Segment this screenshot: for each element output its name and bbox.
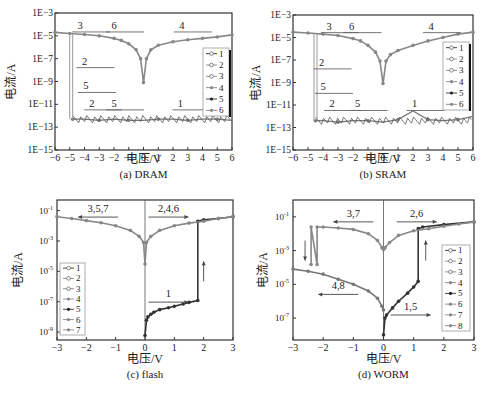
- svg-text:5: 5: [456, 152, 461, 163]
- svg-text:−1: −1: [110, 342, 121, 353]
- svg-text:4,8: 4,8: [332, 280, 345, 291]
- svg-text:1E−7: 1E−7: [32, 54, 53, 64]
- svg-text:1: 1: [412, 98, 417, 109]
- svg-text:6: 6: [219, 105, 224, 115]
- svg-text:3: 3: [231, 342, 236, 353]
- annotations: 3,72,64,81,5: [303, 208, 437, 317]
- svg-text:4: 4: [219, 83, 224, 93]
- svg-text:2: 2: [76, 273, 81, 283]
- svg-text:4: 4: [459, 77, 464, 87]
- svg-text:−5: −5: [303, 152, 314, 163]
- chart-caption: (d) WORM: [358, 368, 409, 381]
- svg-text:1E−3: 1E−3: [32, 8, 53, 18]
- svg-text:6: 6: [459, 99, 464, 109]
- svg-text:2: 2: [82, 56, 87, 67]
- svg-text:3: 3: [458, 267, 463, 277]
- svg-text:7: 7: [76, 325, 81, 335]
- svg-text:5: 5: [219, 94, 224, 104]
- svg-text:1: 1: [172, 342, 177, 353]
- plot-area-flash: −3−2−1012310-110-310-510-710-9电流/A电压/V(c…: [0, 195, 245, 394]
- svg-text:2: 2: [201, 342, 206, 353]
- svg-text:1E−3: 1E−3: [270, 10, 291, 20]
- x-axis-label: 电压/V: [365, 152, 401, 166]
- svg-text:1: 1: [458, 245, 463, 255]
- svg-text:2: 2: [219, 60, 224, 70]
- svg-text:−4: −4: [318, 152, 329, 163]
- svg-text:8: 8: [458, 321, 463, 331]
- svg-text:10-3: 10-3: [275, 245, 289, 256]
- svg-text:1: 1: [76, 263, 81, 273]
- svg-text:2,6: 2,6: [410, 208, 423, 219]
- x-axis-ticks: −3−2−10123: [52, 337, 236, 353]
- svg-text:3,5,7: 3,5,7: [88, 203, 109, 214]
- y-axis-label: 电流/A: [4, 63, 18, 99]
- svg-text:10-7: 10-7: [275, 312, 289, 323]
- svg-text:10-5: 10-5: [39, 265, 53, 276]
- svg-text:3: 3: [426, 152, 431, 163]
- svg-text:6: 6: [230, 152, 235, 163]
- annotations: 3,5,72,4,61: [78, 203, 206, 304]
- svg-text:1,5: 1,5: [404, 301, 417, 312]
- svg-text:1: 1: [219, 49, 224, 59]
- svg-text:4: 4: [200, 152, 205, 163]
- svg-text:2: 2: [458, 256, 463, 266]
- svg-text:1E−9: 1E−9: [32, 77, 53, 87]
- svg-text:1: 1: [459, 43, 464, 53]
- svg-text:6: 6: [458, 299, 463, 309]
- svg-text:10-7: 10-7: [39, 296, 53, 307]
- y-axis-label: 电流/A: [11, 252, 25, 288]
- svg-text:−2: −2: [318, 342, 329, 353]
- svg-text:5: 5: [355, 98, 360, 109]
- svg-text:2: 2: [459, 54, 464, 64]
- svg-text:6: 6: [76, 315, 81, 325]
- chart-caption: (c) flash: [127, 368, 164, 381]
- svg-text:−3: −3: [333, 152, 344, 163]
- svg-text:4: 4: [458, 278, 463, 288]
- svg-text:5: 5: [111, 98, 116, 109]
- svg-text:10-5: 10-5: [275, 278, 289, 289]
- svg-text:1: 1: [411, 342, 416, 353]
- svg-text:1E−13: 1E−13: [266, 123, 292, 133]
- svg-text:1E−11: 1E−11: [266, 100, 291, 110]
- chart-caption: (b) SRAM: [360, 168, 407, 181]
- svg-text:−3: −3: [94, 152, 105, 163]
- svg-text:1E−15: 1E−15: [266, 145, 292, 155]
- svg-text:4: 4: [179, 20, 185, 31]
- svg-text:3: 3: [77, 20, 82, 31]
- chart-panel-flash: −3−2−1012310-110-310-510-710-9电流/A电压/V(c…: [0, 195, 245, 394]
- svg-text:3: 3: [185, 152, 190, 163]
- svg-text:6: 6: [349, 21, 354, 32]
- svg-text:3,7: 3,7: [347, 208, 360, 219]
- svg-text:2: 2: [441, 342, 446, 353]
- svg-text:5: 5: [320, 81, 325, 92]
- chart-panel-sram: −6−5−4−3−2−101234561E−31E−51E−71E−91E−11…: [245, 0, 487, 195]
- svg-text:−3: −3: [52, 342, 63, 353]
- svg-text:−2: −2: [348, 152, 359, 163]
- svg-text:2,4,6: 2,4,6: [158, 203, 179, 214]
- svg-text:5: 5: [215, 152, 220, 163]
- svg-text:6: 6: [471, 152, 476, 163]
- svg-text:−2: −2: [109, 152, 120, 163]
- plot-area-sram: −6−5−4−3−2−101234561E−31E−51E−71E−91E−11…: [245, 0, 487, 195]
- svg-text:1E−9: 1E−9: [270, 78, 291, 88]
- svg-text:3: 3: [459, 65, 464, 75]
- svg-text:5: 5: [458, 288, 463, 298]
- x-axis-label: 电压/V: [127, 352, 163, 366]
- svg-text:4: 4: [441, 152, 446, 163]
- x-axis-ticks: −3−2−10123: [288, 337, 477, 353]
- svg-text:1: 1: [178, 98, 183, 109]
- y-axis-ticks: 1E−31E−51E−71E−91E−111E−131E−15: [28, 8, 58, 155]
- svg-text:5: 5: [76, 304, 81, 314]
- svg-text:2: 2: [89, 98, 94, 109]
- svg-text:3: 3: [326, 21, 331, 32]
- svg-text:10-1: 10-1: [39, 205, 53, 216]
- svg-text:1E−15: 1E−15: [28, 145, 54, 155]
- legend: 123456: [443, 42, 470, 111]
- svg-text:10-1: 10-1: [275, 211, 289, 222]
- svg-text:2: 2: [171, 152, 176, 163]
- svg-text:5: 5: [459, 88, 464, 98]
- svg-text:2: 2: [411, 152, 416, 163]
- svg-text:10-9: 10-9: [39, 326, 53, 337]
- svg-text:10-3: 10-3: [39, 235, 53, 246]
- svg-text:1E−7: 1E−7: [270, 55, 291, 65]
